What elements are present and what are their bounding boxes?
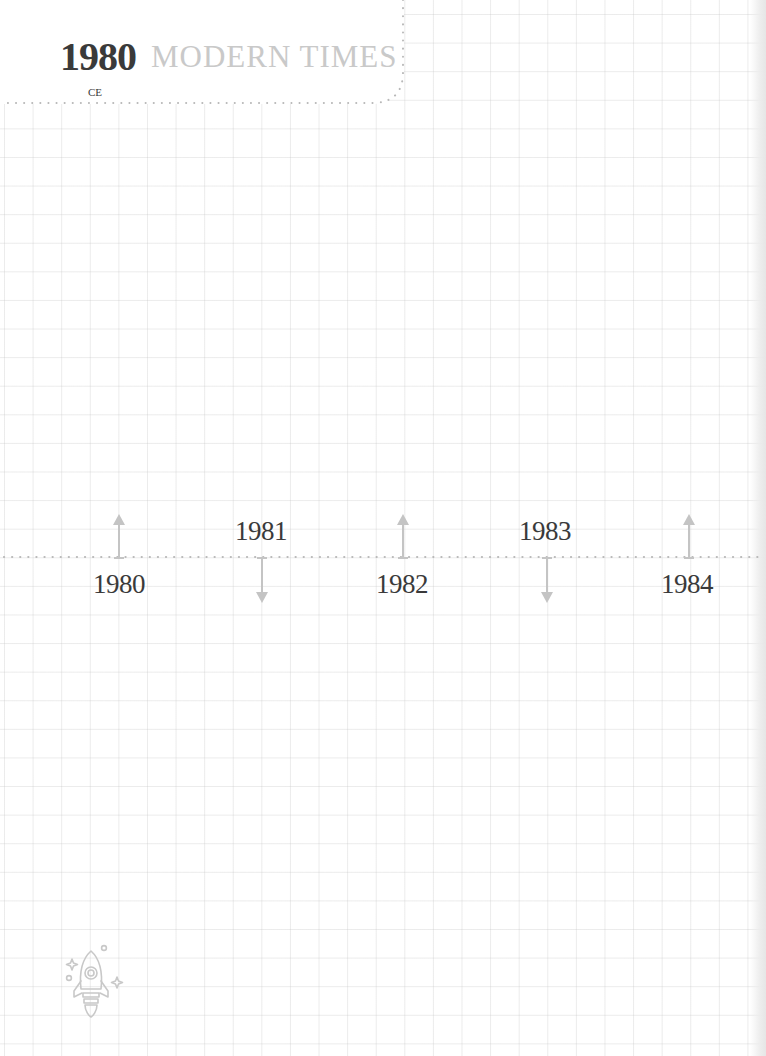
timeline-arrow-up-1982 xyxy=(391,512,415,560)
arrow-up-icon xyxy=(677,512,701,560)
timeline-year-1981: 1981 xyxy=(235,516,287,547)
timeline-year-1984: 1984 xyxy=(661,569,713,600)
arrow-up-icon xyxy=(391,512,415,560)
header-era: CE xyxy=(88,86,102,98)
arrow-down-icon xyxy=(250,556,274,606)
header-period-title: MODERN TIMES xyxy=(151,39,398,75)
arrow-up-icon xyxy=(107,512,131,560)
timeline-arrow-down-1981 xyxy=(250,556,274,606)
arrow-down-icon xyxy=(535,556,559,606)
header-year: 1980 xyxy=(60,33,136,80)
page-edge-shadow xyxy=(750,0,766,1056)
timeline-year-1980: 1980 xyxy=(93,569,145,600)
rocket-icon xyxy=(62,943,126,1023)
timeline-arrow-down-1983 xyxy=(535,556,559,606)
timeline-arrow-up-1984 xyxy=(677,512,701,560)
timeline-year-1982: 1982 xyxy=(376,569,428,600)
timeline-arrow-up-1980 xyxy=(107,512,131,560)
timeline-year-1983: 1983 xyxy=(519,516,571,547)
